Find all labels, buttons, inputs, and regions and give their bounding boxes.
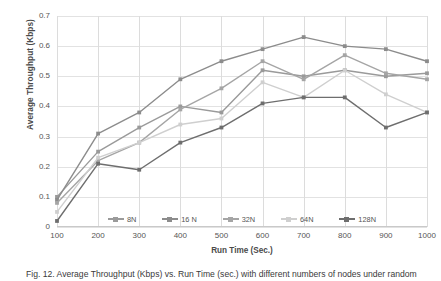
legend-label: 64N — [300, 215, 314, 224]
chart-legend: 8N16 N32N64N128N — [60, 212, 420, 226]
data-point — [343, 53, 347, 57]
legend-marker-icon — [344, 217, 349, 222]
y-tick-label: 0.6 — [26, 41, 50, 50]
y-tick-label: 0.3 — [26, 132, 50, 141]
data-point — [137, 111, 141, 115]
legend-swatch-icon — [281, 218, 297, 220]
legend-swatch-icon — [108, 218, 124, 220]
x-tick-label: 400 — [160, 231, 200, 240]
legend-swatch-icon — [339, 218, 355, 220]
data-point — [96, 132, 100, 136]
data-point — [96, 162, 100, 166]
data-point — [178, 108, 182, 112]
legend-item-64n[interactable]: 64N — [281, 215, 314, 224]
legend-marker-icon — [286, 217, 291, 222]
data-point — [220, 111, 224, 115]
data-point — [343, 95, 347, 99]
data-point — [220, 59, 224, 63]
data-point — [55, 201, 59, 205]
data-point — [261, 102, 265, 106]
data-point — [384, 47, 388, 51]
data-point — [178, 141, 182, 145]
y-tick-label: 0.1 — [26, 192, 50, 201]
y-tick-label: 0.7 — [26, 11, 50, 20]
series-line-32n — [57, 55, 427, 203]
data-point — [96, 150, 100, 154]
series-line-8n — [57, 70, 427, 197]
x-tick-label: 200 — [78, 231, 118, 240]
data-point — [96, 156, 100, 160]
data-point — [425, 111, 429, 115]
series-lines — [57, 16, 427, 227]
y-tick-label: 0 — [26, 222, 50, 231]
data-point — [425, 59, 429, 63]
legend-label: 16 N — [181, 215, 197, 224]
x-tick-label: 900 — [366, 231, 406, 240]
y-tick-label: 0.5 — [26, 71, 50, 80]
x-tick-label: 800 — [325, 231, 365, 240]
data-point — [384, 126, 388, 130]
data-point — [302, 77, 306, 81]
legend-label: 32N — [242, 215, 256, 224]
data-point — [261, 68, 265, 72]
data-point — [302, 95, 306, 99]
data-point — [343, 44, 347, 48]
x-tick-label: 100 — [37, 231, 77, 240]
data-point — [302, 35, 306, 39]
x-tick-label: 1000 — [407, 231, 441, 240]
figure-caption: Fig. 12. Average Throughput (Kbps) vs. R… — [26, 268, 418, 281]
x-tick-label: 700 — [284, 231, 324, 240]
data-point — [261, 80, 265, 84]
legend-item-8n[interactable]: 8N — [108, 215, 136, 224]
x-tick-label: 600 — [243, 231, 283, 240]
data-point — [220, 86, 224, 90]
data-point — [220, 117, 224, 121]
legend-item-16n[interactable]: 16 N — [162, 215, 197, 224]
legend-marker-icon — [167, 217, 172, 222]
y-tick-label: 0.2 — [26, 162, 50, 171]
data-point — [425, 71, 429, 75]
data-point — [178, 77, 182, 81]
data-point — [220, 126, 224, 130]
y-tick-label: 0.4 — [26, 101, 50, 110]
series-line-16n — [57, 37, 427, 200]
legend-label: 128N — [358, 215, 376, 224]
legend-item-32n[interactable]: 32N — [223, 215, 256, 224]
x-tick-label: 500 — [201, 231, 241, 240]
data-point — [55, 219, 59, 223]
data-point — [384, 71, 388, 75]
data-point — [55, 210, 59, 214]
data-point — [384, 92, 388, 96]
legend-swatch-icon — [162, 218, 178, 220]
gridline-y — [57, 227, 427, 228]
data-point — [178, 123, 182, 127]
data-point — [137, 126, 141, 130]
x-tick-label: 300 — [119, 231, 159, 240]
data-point — [137, 141, 141, 145]
series-line-128n — [57, 97, 427, 221]
data-point — [137, 168, 141, 172]
plot-area — [57, 16, 427, 227]
gridline-x — [427, 16, 428, 227]
legend-marker-icon — [113, 217, 118, 222]
x-axis-title: Run Time (Sec.) — [57, 246, 427, 255]
legend-label: 8N — [127, 215, 136, 224]
data-point — [343, 68, 347, 72]
data-point — [425, 77, 429, 81]
legend-marker-icon — [228, 217, 233, 222]
data-point — [261, 47, 265, 51]
legend-swatch-icon — [223, 218, 239, 220]
legend-item-128n[interactable]: 128N — [339, 215, 376, 224]
data-point — [261, 59, 265, 63]
